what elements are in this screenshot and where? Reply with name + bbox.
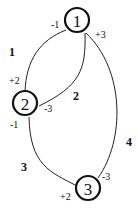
node-1: 1 xyxy=(65,8,89,32)
edge-4 xyxy=(86,33,117,178)
node-3-label: 3 xyxy=(84,180,93,199)
port-n1-left: -1 xyxy=(51,19,59,30)
edge-4-label: 4 xyxy=(126,135,132,149)
node-1-label: 1 xyxy=(73,12,82,31)
edge-3 xyxy=(29,117,77,186)
node-2-label: 2 xyxy=(21,95,30,114)
port-n3-left: +2 xyxy=(60,191,71,202)
port-n2-right: -3 xyxy=(44,103,52,114)
node-2: 2 xyxy=(13,91,37,115)
port-n2-top: +2 xyxy=(9,75,20,86)
node-3: 3 xyxy=(76,176,100,200)
port-n2-bottom: -1 xyxy=(10,119,18,130)
edge-2-label: 2 xyxy=(73,89,79,103)
graph-diagram: 1 2 3 1 2 3 4 -1 +3 +2 -3 -1 +2 -3 xyxy=(0,0,138,212)
port-n1-right: +3 xyxy=(95,29,106,40)
edge-1 xyxy=(25,30,66,92)
edge-1-label: 1 xyxy=(9,45,15,59)
port-n3-top: -3 xyxy=(102,171,110,182)
edge-3-label: 3 xyxy=(21,160,27,174)
